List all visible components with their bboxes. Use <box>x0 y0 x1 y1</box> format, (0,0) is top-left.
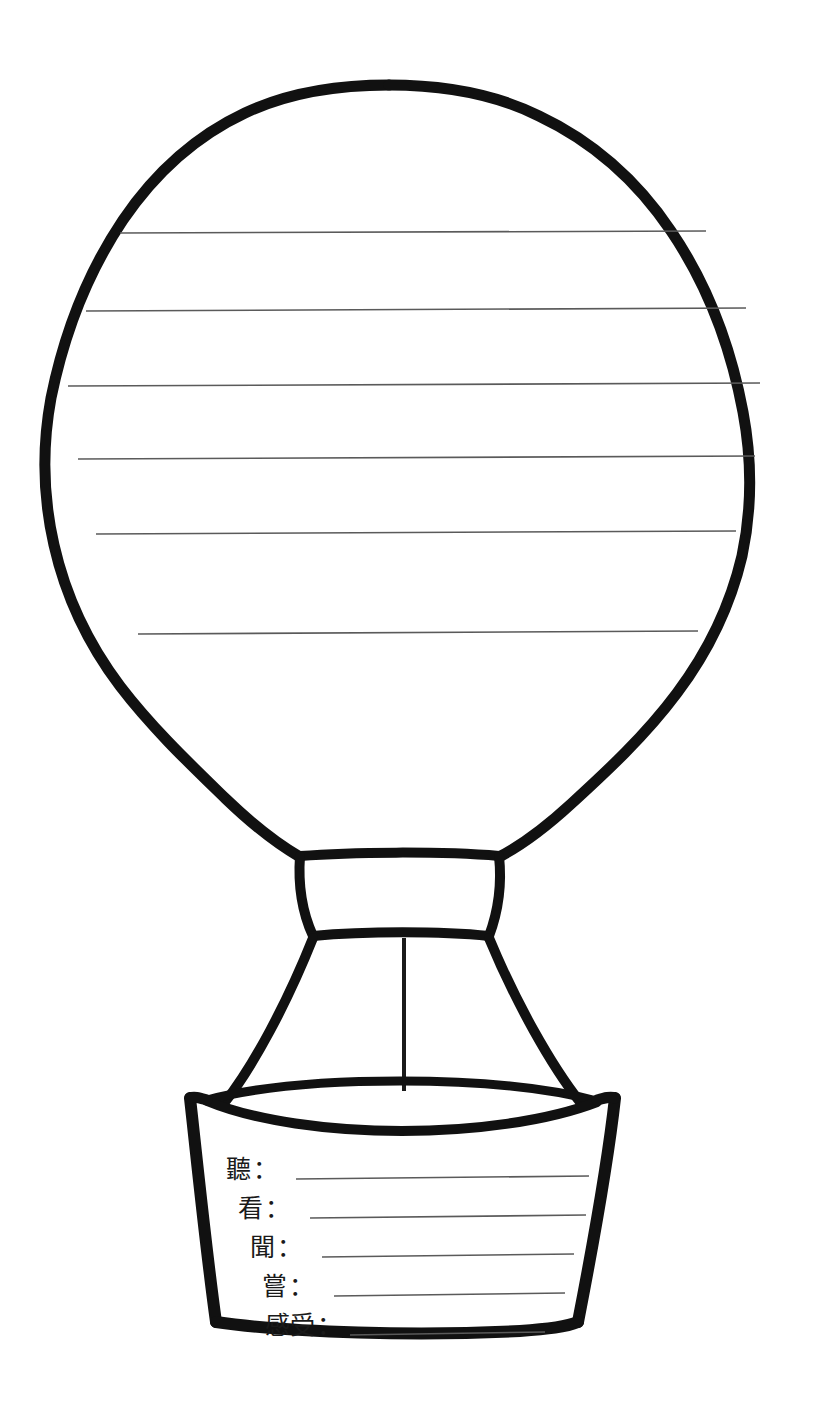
sense-colon-hear: ： <box>253 1155 278 1184</box>
basket-row[interactable]: 嘗 ： <box>262 1272 565 1301</box>
rope-left <box>225 938 313 1102</box>
sense-answer-line-taste[interactable] <box>334 1293 565 1296</box>
rope-right <box>489 938 580 1102</box>
worksheet-page: 聽 ： 看 ： 聞 ： 嘗 ： 感受 ： <box>0 0 823 1401</box>
sense-colon-smell: ： <box>277 1233 302 1262</box>
balloon-envelope <box>45 85 750 857</box>
writing-line-4[interactable] <box>78 456 755 459</box>
writing-line-3[interactable] <box>68 383 760 386</box>
sense-colon-feelings: ： <box>317 1311 342 1340</box>
hot-air-balloon-worksheet: 聽 ： 看 ： 聞 ： 嘗 ： 感受 ： <box>0 0 823 1401</box>
basket-row[interactable]: 聽 ： <box>226 1155 589 1184</box>
sense-label-feelings: 感受 <box>265 1311 315 1340</box>
sense-label-taste: 嘗 <box>262 1272 287 1301</box>
sense-colon-see: ： <box>265 1194 290 1223</box>
envelope-writing-lines <box>68 231 760 634</box>
sense-answer-line-hear[interactable] <box>296 1176 589 1179</box>
writing-line-6[interactable] <box>138 631 698 634</box>
writing-line-5[interactable] <box>96 531 736 534</box>
sense-label-see: 看 <box>238 1194 263 1223</box>
sense-label-hear: 聽 <box>226 1155 251 1184</box>
sense-label-smell: 聞 <box>250 1233 275 1262</box>
basket-sense-rows: 聽 ： 看 ： 聞 ： 嘗 ： 感受 ： <box>226 1155 589 1340</box>
writing-line-2[interactable] <box>86 308 746 311</box>
writing-line-1[interactable] <box>120 231 706 233</box>
basket-row[interactable]: 看 ： <box>238 1194 586 1223</box>
sense-answer-line-smell[interactable] <box>322 1254 574 1257</box>
basket-row[interactable]: 聞 ： <box>250 1233 574 1262</box>
sense-answer-line-see[interactable] <box>310 1215 586 1218</box>
sense-colon-taste: ： <box>289 1272 314 1301</box>
balloon-skirt <box>300 853 500 936</box>
